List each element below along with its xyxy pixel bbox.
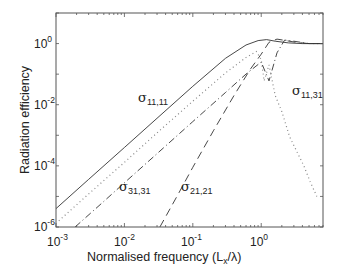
curve-3131	[75, 40, 323, 227]
x-tick-1e-3: 10-3	[47, 232, 68, 249]
plot-curves	[56, 39, 323, 227]
label-sigma-21-21: σ21,21	[181, 179, 212, 196]
radiation-efficiency-chart: 10-3 10-2 10-1 100 100 10-2 10-4 10-6 No…	[0, 0, 338, 270]
y-tick-1e-2: 10-2	[34, 95, 55, 112]
y-tick-1e-6: 10-6	[34, 217, 55, 234]
x-axis-title: Normalised frequency (Lx/λ)	[87, 250, 241, 266]
x-tick-labels: 10-3 10-2 10-1 100	[47, 232, 268, 249]
curve-2121	[160, 39, 323, 227]
label-sigma-31-31: σ31,31	[119, 179, 150, 196]
x-tick-1e-1: 10-1	[181, 232, 202, 249]
y-tick-labels: 100 10-2 10-4 10-6	[34, 34, 55, 234]
label-sigma-11-11: σ11,11	[138, 90, 168, 107]
x-tick-1e-2: 10-2	[114, 232, 135, 249]
y-tick-1e-4: 10-4	[34, 156, 55, 173]
label-sigma-11-31: σ11,31	[292, 83, 323, 100]
y-tick-1e0: 100	[34, 34, 52, 51]
x-tick-1e0: 100	[250, 232, 268, 249]
y-axis-title: Radiation efficiency	[18, 65, 32, 174]
curve-1131	[59, 52, 317, 221]
